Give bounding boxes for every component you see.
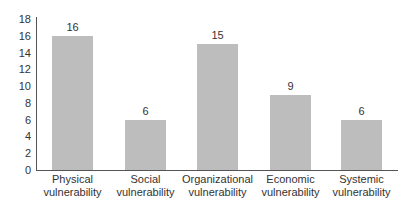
bar-chart: 02468101214161816Physicalvulnerability6S…: [0, 0, 415, 204]
bar-value-label: 6: [332, 105, 392, 117]
x-category-label-line: vulnerability: [312, 186, 412, 199]
y-tick-label: 10: [0, 80, 31, 92]
y-axis: [36, 17, 37, 171]
y-tick-label: 14: [0, 47, 31, 59]
x-category-label-line: Systemic: [312, 173, 412, 186]
y-tick-label: 2: [0, 147, 31, 159]
bar-value-label: 9: [261, 80, 321, 92]
bar: [270, 95, 311, 171]
y-tick-label: 4: [0, 130, 31, 142]
x-axis: [36, 170, 398, 171]
bar-value-label: 16: [43, 21, 103, 33]
bar: [197, 44, 238, 170]
y-tick-label: 6: [0, 114, 31, 126]
y-tick-label: 16: [0, 30, 31, 42]
bar: [341, 120, 382, 170]
bar-value-label: 15: [188, 29, 248, 41]
bar: [52, 36, 93, 170]
y-tick-label: 12: [0, 63, 31, 75]
x-category-label: Systemicvulnerability: [312, 173, 412, 199]
bar: [125, 120, 166, 170]
y-tick-label: 8: [0, 97, 31, 109]
bar-value-label: 6: [116, 105, 176, 117]
y-tick-label: 18: [0, 13, 31, 25]
